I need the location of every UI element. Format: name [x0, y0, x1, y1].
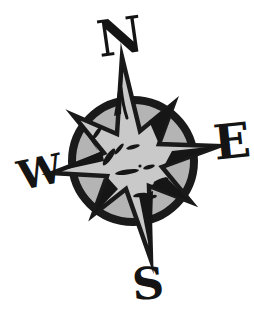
label-north: N: [93, 4, 146, 69]
label-west: W: [12, 144, 68, 200]
compass-illustration: N E W S: [0, 0, 254, 313]
texture-dot: [138, 164, 141, 167]
compass-rose-graphic: N E W S: [0, 0, 254, 313]
label-south: S: [130, 257, 165, 310]
label-east: E: [211, 111, 253, 171]
